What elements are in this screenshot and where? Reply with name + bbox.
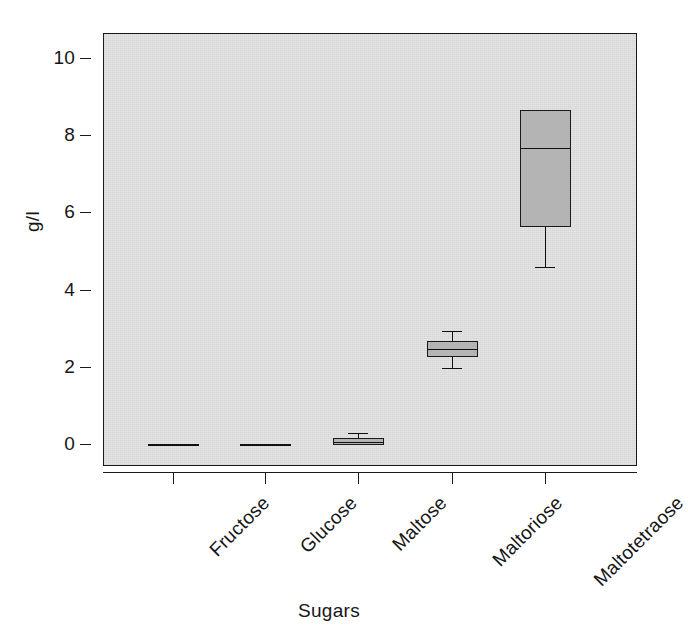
box-maltotetraose-lower-cap [535,267,555,268]
box-maltotetraose-median [520,148,571,149]
x-tick-mark-glucose [265,472,266,484]
x-axis-title: Sugars [0,600,658,622]
x-tick-mark-maltoriose [452,472,453,484]
x-tick-mark-maltotetraose [545,472,546,484]
box-maltoriose-upper-whisker [452,331,453,341]
box-maltose-upper-cap [348,433,368,434]
box-maltoriose-lower-cap [442,368,462,369]
box-maltotetraose-box [520,110,571,227]
x-tick-mark-fructose [173,472,174,484]
box-maltoriose-lower-whisker [452,357,453,368]
x-tick-mark-maltose [358,472,359,484]
x-axis-line [103,472,637,473]
box-maltotetraose-lower-whisker [545,227,546,267]
box-fructose-flat-line [148,444,199,446]
box-glucose-flat-line [240,444,291,446]
box-maltoriose-median [427,349,478,350]
box-maltose-median [333,442,384,443]
